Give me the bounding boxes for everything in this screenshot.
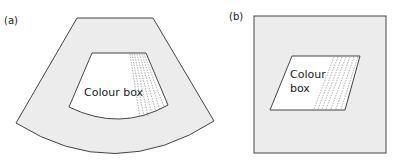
- colour-box-diagram: (a) Colour box (b) Colour box: [0, 0, 397, 164]
- colour-box-a-label: Colour box: [84, 86, 144, 99]
- panel-a: (a) Colour box: [4, 15, 214, 154]
- panel-b: (b) Colour box: [229, 11, 386, 153]
- panel-a-label: (a): [4, 15, 18, 26]
- colour-box-b-label-line1: Colour: [290, 68, 326, 81]
- colour-box-b-label-line2: box: [290, 82, 310, 95]
- panel-b-label: (b): [229, 11, 243, 22]
